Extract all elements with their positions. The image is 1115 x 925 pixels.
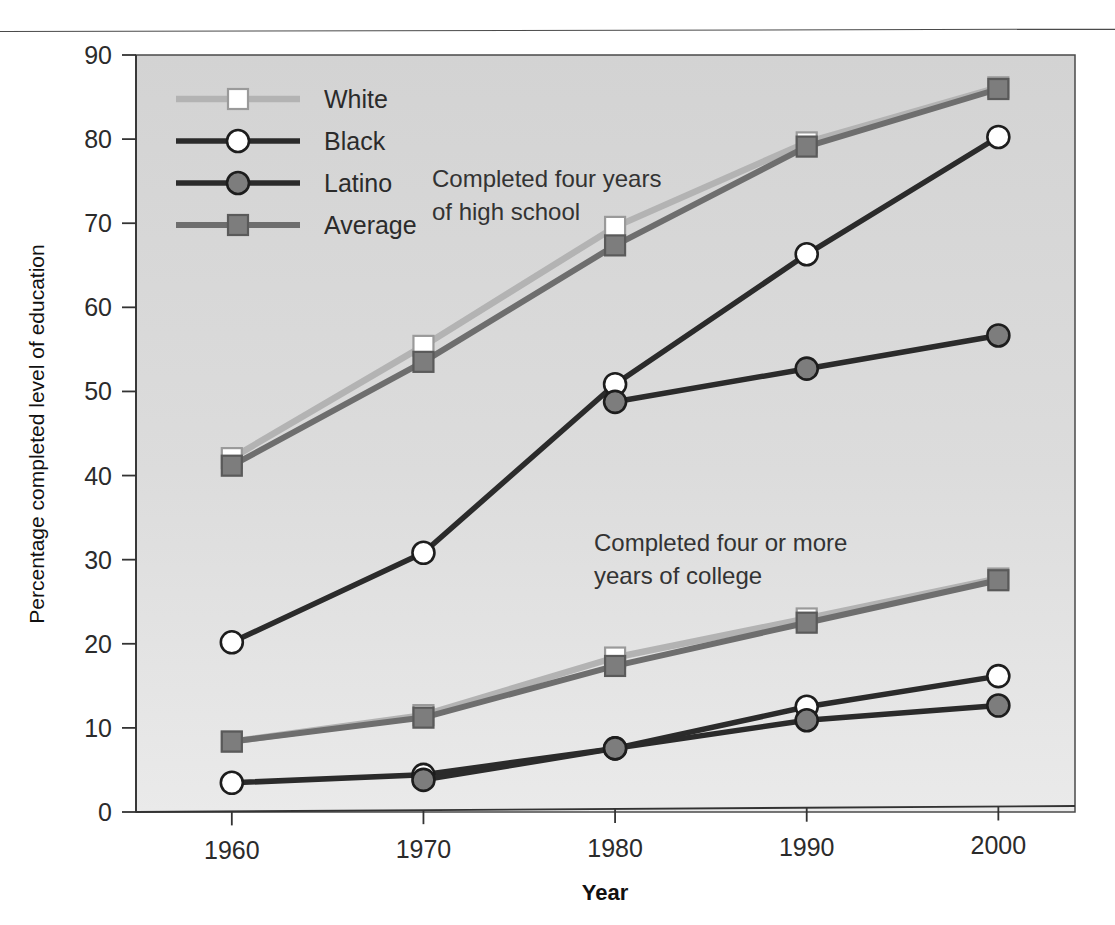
y-tick-label: 70 (84, 209, 112, 237)
legend-label: Black (324, 127, 386, 155)
data-point-marker (222, 456, 242, 476)
x-axis: 19601970198019902000 (136, 806, 1075, 864)
y-tick-label: 0 (98, 798, 112, 826)
data-point-marker (221, 631, 243, 653)
y-tick-label: 10 (84, 714, 112, 742)
chart-figure: 0102030405060708090 19601970198019902000… (0, 0, 1115, 925)
data-point-marker (228, 215, 248, 235)
data-point-marker (988, 79, 1008, 99)
y-tick-label: 80 (84, 125, 112, 153)
data-point-marker (987, 126, 1009, 148)
annotation-high-school-line2: of high school (432, 198, 580, 225)
education-attainment-line-chart: 0102030405060708090 19601970198019902000… (0, 0, 1115, 925)
x-axis-ticks: 19601970198019902000 (204, 806, 1026, 864)
legend-label: Latino (324, 169, 392, 197)
data-point-marker (227, 130, 249, 152)
x-tick-label: 1970 (396, 835, 452, 863)
y-axis-ticks: 0102030405060708090 (84, 41, 136, 826)
data-point-marker (796, 358, 818, 380)
data-point-marker (604, 391, 626, 413)
data-point-marker (413, 352, 433, 372)
data-point-marker (605, 217, 625, 237)
data-point-marker (987, 665, 1009, 687)
data-point-marker (796, 709, 818, 731)
data-point-marker (412, 542, 434, 564)
annotation-college-line1: Completed four or more (594, 529, 847, 556)
data-point-marker (221, 772, 243, 794)
y-axis-title: Percentage completed level of education (25, 244, 48, 623)
legend-label: Average (324, 211, 417, 239)
data-point-marker (228, 89, 248, 109)
figure-page: 0102030405060708090 19601970198019902000… (0, 0, 1115, 925)
data-point-marker (987, 324, 1009, 346)
data-point-marker (222, 732, 242, 752)
y-tick-label: 40 (84, 462, 112, 490)
data-point-marker (604, 737, 626, 759)
data-point-marker (412, 769, 434, 791)
annotation-college-line2: years of college (594, 562, 762, 589)
x-tick-label: 2000 (971, 831, 1027, 859)
y-tick-label: 60 (84, 293, 112, 321)
data-point-marker (797, 137, 817, 157)
data-point-marker (605, 656, 625, 676)
annotation-high-school-line1: Completed four years (432, 165, 661, 192)
x-tick-label: 1960 (204, 836, 260, 864)
x-tick-label: 1990 (779, 833, 835, 861)
data-point-marker (413, 708, 433, 728)
x-tick-label: 1980 (587, 834, 643, 862)
y-tick-label: 90 (84, 41, 112, 69)
data-point-marker (605, 235, 625, 255)
data-point-marker (987, 695, 1009, 717)
x-axis-title: Year (582, 880, 629, 905)
data-point-marker (227, 172, 249, 194)
y-axis: 0102030405060708090 (84, 41, 136, 826)
data-point-marker (796, 243, 818, 265)
legend-label: White (324, 85, 388, 113)
y-tick-label: 30 (84, 546, 112, 574)
data-point-marker (797, 613, 817, 633)
data-point-marker (988, 570, 1008, 590)
y-tick-label: 20 (84, 630, 112, 658)
y-tick-label: 50 (84, 377, 112, 405)
